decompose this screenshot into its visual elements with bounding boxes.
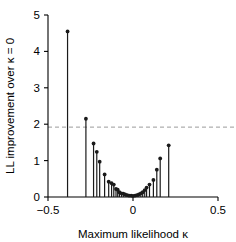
x-axis-ticks: −0.500.5 [37,197,226,216]
y-tick-label: 2 [34,118,40,130]
stem-marker [92,142,96,146]
x-tick-label: 0.5 [210,204,226,216]
x-tick-label: −0.5 [37,204,60,216]
y-tick-label: 0 [34,191,40,203]
y-tick-label: 3 [34,82,40,94]
stem-marker [155,168,159,172]
stem-marker [98,160,102,164]
stem-plot-figure: 012345 −0.500.5 Maximum likelihood κ LL … [0,0,236,242]
y-tick-label: 4 [34,45,41,57]
y-tick-label: 1 [34,155,40,167]
x-axis-title: Maximum likelihood κ [78,228,188,240]
y-axis-ticks: 012345 [34,9,48,203]
stem-marker [152,178,156,182]
stem-marker [145,186,149,190]
stem-marker [103,173,107,177]
stem-marker [66,29,70,33]
y-axis-title: LL improvement over κ = 0 [4,38,16,174]
stem-marker [167,143,171,147]
stem-marker [158,157,162,161]
stem-marker [95,150,99,154]
stem-series [66,29,171,197]
y-tick-label: 5 [34,9,40,21]
stem-marker [148,183,152,187]
x-tick-label: 0 [130,204,136,216]
stem-marker [112,183,116,187]
chart-canvas: 012345 −0.500.5 Maximum likelihood κ LL … [0,0,236,242]
stem-marker [84,117,88,121]
